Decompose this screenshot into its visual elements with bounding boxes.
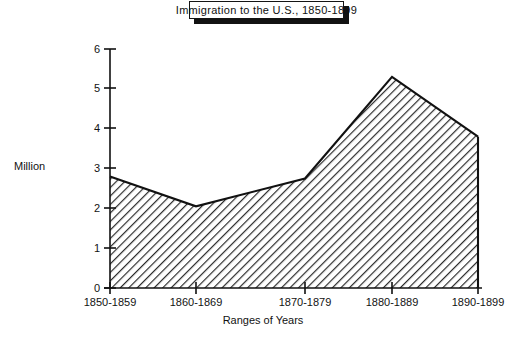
x-tick-label-1890-1899: 1890-1899 xyxy=(433,296,523,308)
y-tick-label-3: 3 xyxy=(78,162,100,174)
x-axis-title: Ranges of Years xyxy=(0,314,526,326)
area-series xyxy=(110,77,478,288)
x-tick-label-1850-1859: 1850-1859 xyxy=(65,296,155,308)
y-tick-label-6: 6 xyxy=(78,43,100,55)
plot-area: 0 1 2 3 4 5 6 1850-1859 1860-1869 1870-1… xyxy=(0,0,526,342)
y-tick-label-5: 5 xyxy=(78,82,100,94)
chart-screenshot: Immigration to the U.S., 1850-1899 xyxy=(0,0,526,342)
y-tick-label-0: 0 xyxy=(78,282,100,294)
y-tick-label-2: 2 xyxy=(78,202,100,214)
y-axis-title: Million xyxy=(14,160,45,172)
x-tick-label-1870-1879: 1870-1879 xyxy=(260,296,350,308)
x-tick-label-1880-1889: 1880-1889 xyxy=(347,296,437,308)
y-tick-label-1: 1 xyxy=(78,242,100,254)
x-tick-label-1860-1869: 1860-1869 xyxy=(151,296,241,308)
y-tick-label-4: 4 xyxy=(78,122,100,134)
